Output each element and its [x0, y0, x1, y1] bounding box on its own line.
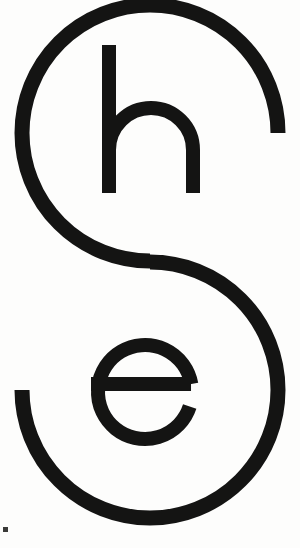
- h-right-stem: [186, 150, 200, 193]
- she-wordmark-artwork: [0, 0, 300, 548]
- logo-canvas: [0, 0, 300, 548]
- e-crossbar: [91, 377, 191, 391]
- scan-speck: [3, 527, 8, 532]
